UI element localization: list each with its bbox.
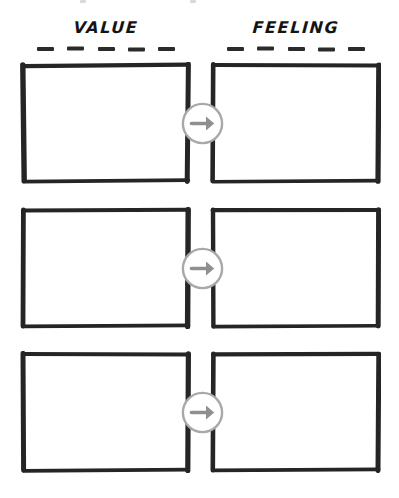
rule-dash: [97, 46, 114, 50]
value-box-3[interactable]: [20, 351, 191, 473]
column-header-value: VALUE: [21, 18, 191, 38]
value-box-2[interactable]: [20, 207, 191, 329]
column-header-feeling: FEELING: [211, 18, 381, 38]
feeling-box-1[interactable]: [210, 62, 381, 184]
rule-dash: [227, 46, 244, 50]
dashed-rule-feeling: [227, 44, 365, 53]
column-title-value: VALUE: [20, 18, 191, 38]
worksheet-row: [0, 207, 399, 329]
rule-dash: [318, 47, 335, 51]
worksheet-canvas: VALUE FEELING: [0, 0, 399, 498]
worksheet-row: [0, 62, 399, 184]
rule-dash: [158, 47, 175, 51]
rule-dash: [348, 47, 365, 51]
rule-dash: [257, 46, 274, 50]
circle-arrow-right-icon: [180, 246, 225, 291]
circle-arrow-right-icon: [180, 101, 225, 146]
feeling-box-2[interactable]: [210, 207, 381, 329]
top-crop-mark: [190, 0, 196, 3]
top-crop-mark: [80, 0, 86, 3]
feeling-box-3[interactable]: [210, 351, 381, 473]
rule-dash: [128, 47, 145, 51]
rule-dash: [37, 46, 54, 50]
column-title-feeling: FEELING: [210, 18, 381, 38]
worksheet-row: [0, 351, 399, 473]
circle-arrow-right-icon: [180, 390, 225, 435]
rule-dash: [287, 46, 304, 50]
value-box-1[interactable]: [20, 62, 191, 184]
rule-dash: [67, 46, 84, 50]
dashed-rule-value: [37, 44, 175, 53]
